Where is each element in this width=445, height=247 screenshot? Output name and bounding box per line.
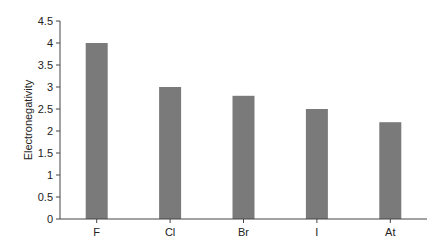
x-tick-label: Cl [165,226,175,238]
y-axis: 00.511.522.533.544.5 [38,15,60,225]
x-tick-label: Br [238,226,249,238]
bar-f [86,43,108,219]
bar-cl [159,87,181,219]
bars-group [86,43,402,219]
y-tick-label: 1 [47,169,53,181]
y-tick-label: 4 [47,37,53,49]
y-tick-label: 1.5 [38,147,53,159]
y-tick-label: 2 [47,125,53,137]
bar-i [306,109,328,219]
x-axis: FClBrIAt [60,219,427,238]
x-tick-label: F [93,226,100,238]
x-tick-label: At [385,226,395,238]
bar-br [233,96,255,219]
x-tick-label: I [315,226,318,238]
y-axis-title: Electronegativity [22,79,34,160]
y-tick-label: 3 [47,81,53,93]
y-tick-label: 2.5 [38,103,53,115]
bar-at [379,122,401,219]
y-tick-label: 0.5 [38,191,53,203]
y-tick-label: 4.5 [38,15,53,27]
y-tick-label: 3.5 [38,59,53,71]
y-tick-label: 0 [47,213,53,225]
bar-chart: 00.511.522.533.544.5 FClBrIAt Electroneg… [0,0,445,247]
